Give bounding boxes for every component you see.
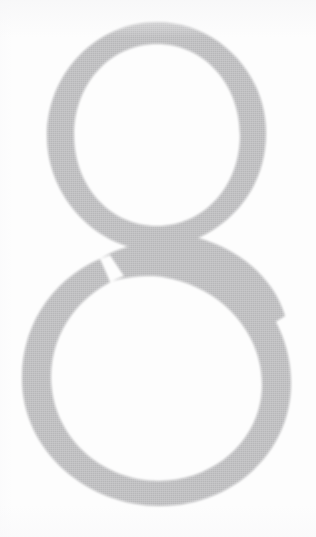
scanned-page: 8	[0, 0, 316, 537]
numeral-eight-glyph	[0, 0, 316, 537]
numeral-eight-svg	[0, 0, 316, 537]
glyph-outline-group	[22, 22, 291, 506]
